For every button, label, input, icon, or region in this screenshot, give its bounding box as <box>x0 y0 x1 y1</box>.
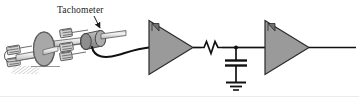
schematic-figure: Tachometer <box>0 0 359 99</box>
tachometer-label: Tachometer <box>57 5 104 15</box>
tachometer-left-cap <box>81 34 91 50</box>
hatch-fill <box>11 66 40 74</box>
tachometer-body[interactable] <box>81 31 106 50</box>
schematic-canvas: Tachometer <box>0 0 359 99</box>
coil-block-b <box>59 42 73 52</box>
